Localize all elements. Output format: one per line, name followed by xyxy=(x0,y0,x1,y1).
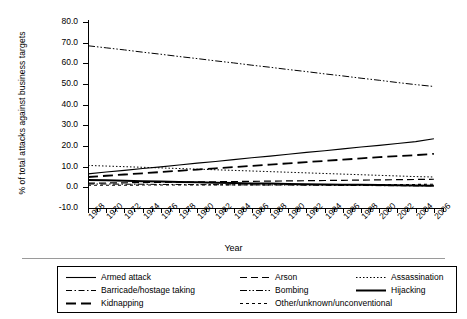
legend-line-swatch xyxy=(66,287,96,294)
legend-item[interactable]: Hijacking xyxy=(356,285,426,295)
legend-item-label: Arson xyxy=(275,272,297,282)
legend-item-label: Kidnapping xyxy=(101,298,144,308)
x-axis-title: Year xyxy=(0,243,467,253)
legend-item-label: Bombing xyxy=(275,285,309,295)
chart-root: % of total attacks against business targ… xyxy=(0,0,467,319)
divider-rule xyxy=(22,258,445,259)
legend-item-label: Armed attack xyxy=(101,272,151,282)
legend-item[interactable]: Other/unknown/unconventional xyxy=(240,298,392,308)
legend-line-swatch xyxy=(240,274,270,281)
legend-item[interactable]: Armed attack xyxy=(66,272,151,282)
series-line xyxy=(88,46,434,87)
legend-item[interactable]: Bombing xyxy=(240,285,309,295)
legend-item[interactable]: Assassination xyxy=(356,272,443,282)
legend-line-swatch xyxy=(66,274,96,281)
legend-line-swatch xyxy=(240,300,270,307)
series-line xyxy=(88,165,434,177)
legend-item-label: Other/unknown/unconventional xyxy=(275,298,392,308)
series-line xyxy=(88,180,434,186)
legend-item-label: Barricade/hostage taking xyxy=(101,285,195,295)
legend-line-swatch xyxy=(356,287,386,294)
legend-line-swatch xyxy=(66,300,96,307)
legend-item[interactable]: Barricade/hostage taking xyxy=(66,285,195,295)
legend-line-swatch xyxy=(240,287,270,294)
legend-item-label: Assassination xyxy=(391,272,443,282)
legend-item[interactable]: Arson xyxy=(240,272,297,282)
legend-line-swatch xyxy=(356,274,386,281)
legend-item[interactable]: Kidnapping xyxy=(66,298,144,308)
legend-item-label: Hijacking xyxy=(391,285,426,295)
chart-legend: Armed attackArsonAssassinationBarricade/… xyxy=(57,266,457,313)
